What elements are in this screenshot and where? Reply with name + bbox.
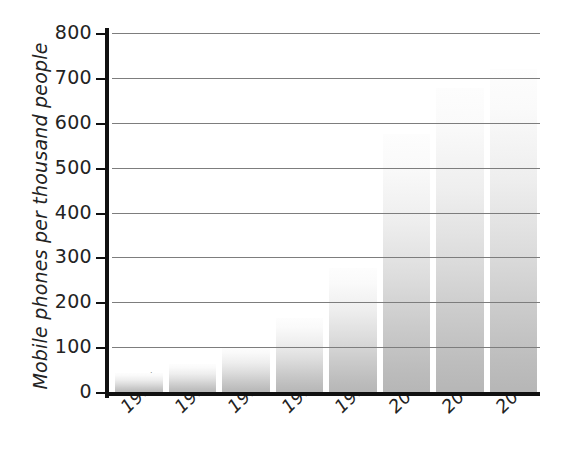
gridline <box>112 168 540 169</box>
y-axis-tick-labels: 8007006005004003002001000 <box>26 0 92 470</box>
y-axis-tick-label: 400 <box>32 201 92 223</box>
y-axis-tick-label: 300 <box>32 245 92 267</box>
x-axis-line <box>105 392 540 396</box>
bar <box>490 69 538 393</box>
bar <box>222 347 270 393</box>
y-axis-tick-label: 700 <box>32 66 92 88</box>
y-axis-tick-label: 0 <box>32 380 92 402</box>
gridline <box>112 302 540 303</box>
gridline <box>112 257 540 258</box>
y-axis-line <box>105 28 109 398</box>
gridline <box>112 78 540 79</box>
plot-area <box>112 34 540 393</box>
bar <box>115 373 163 393</box>
bar <box>383 134 431 393</box>
bar <box>329 268 377 393</box>
y-axis-tick-label: 200 <box>32 290 92 312</box>
y-axis-tick-label: 800 <box>32 21 92 43</box>
gridline <box>112 33 540 34</box>
y-axis-tick-label: 100 <box>32 335 92 357</box>
y-axis-tick-label: 500 <box>32 156 92 178</box>
gridline <box>112 213 540 214</box>
bar-chart: Mobile phones per thousand people 800700… <box>0 0 571 470</box>
gridline <box>112 123 540 124</box>
y-axis-tick-label: 600 <box>32 111 92 133</box>
bar <box>276 318 324 393</box>
bar <box>169 364 217 393</box>
gridline <box>112 347 540 348</box>
